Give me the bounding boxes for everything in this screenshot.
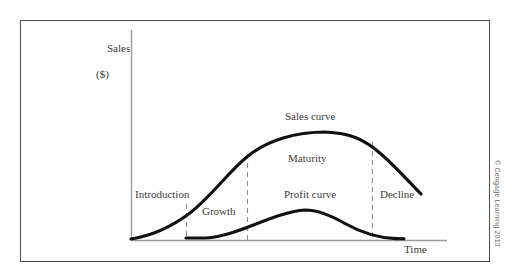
y-axis-label-text: Sales [107, 42, 130, 54]
copyright-notice: © Cengage Learning 2013 [494, 160, 501, 270]
x-axis-label: Time [404, 243, 427, 256]
sales-curve-path [131, 132, 421, 239]
stage-label-introduction: Introduction [135, 188, 189, 200]
profit-curve-label: Profit curve [284, 188, 336, 200]
y-axis-label: Sales ($) [96, 29, 130, 107]
product-life-cycle-figure: Sales ($) Time Introduction Growth Matur… [0, 0, 523, 279]
stage-label-decline: Decline [380, 188, 414, 200]
sales-curve-label: Sales curve [285, 110, 335, 122]
stage-label-growth: Growth [202, 205, 236, 217]
y-axis-unit-text: ($) [96, 68, 130, 81]
stage-label-maturity: Maturity [288, 152, 327, 164]
plot-area [0, 0, 523, 279]
